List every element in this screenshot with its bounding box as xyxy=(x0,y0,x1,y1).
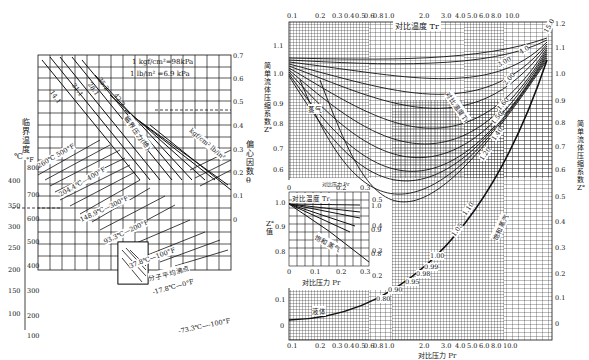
right-tick: 0.3 xyxy=(555,244,565,252)
liquid-label: 液体 xyxy=(312,306,326,316)
inset-left-tick: 1.0 xyxy=(275,199,285,207)
c-tick: 200 xyxy=(8,266,20,274)
celsius-unit: ℃ xyxy=(14,152,23,161)
tr-value: 0.90 xyxy=(388,286,402,294)
f-tick: 400 xyxy=(27,262,39,270)
compressibility-chart xyxy=(260,0,589,359)
top-tick: 0.1 xyxy=(287,12,297,20)
bottom-tick: 0.8 xyxy=(373,342,383,350)
c-tick: 400 xyxy=(8,177,20,185)
left-tick: 0.6 xyxy=(273,166,283,174)
lower-left-tick: 0 xyxy=(280,322,284,330)
left-axis-title: 简单流体压缩系数Z° xyxy=(264,62,273,134)
tr-value: 0.95 xyxy=(405,278,419,286)
lower-left-tick: 0.1 xyxy=(275,296,285,304)
theta-tick: 0.2 xyxy=(233,169,243,177)
inset-bottom-tick: 0.1 xyxy=(310,268,320,276)
inset-x-title: 对比压力 Pr xyxy=(302,277,340,287)
top-tick: 0.8 xyxy=(373,12,383,20)
f-tick: 200 xyxy=(27,312,39,320)
fahrenheit-unit: °F xyxy=(26,156,34,164)
tr-value: 0.98 xyxy=(416,270,430,278)
theta-tick: 0.7 xyxy=(233,52,243,60)
right-tick: 0 xyxy=(555,320,559,328)
left-nomograph xyxy=(0,0,260,359)
c-tick: 300 xyxy=(8,223,20,231)
top-tick: 3.0 xyxy=(441,12,451,20)
bottom-tick: 10.0 xyxy=(503,342,517,350)
theta-tick: 0.4 xyxy=(233,122,243,130)
top-tick: 5.0 xyxy=(467,12,477,20)
f-tick: 100 xyxy=(27,332,39,340)
bottom-tick: 0.4 xyxy=(344,342,354,350)
right-tick: 0.8 xyxy=(555,119,565,127)
theta-tick: 0.6 xyxy=(233,75,243,83)
inset-y-title: Z°值 xyxy=(266,220,274,236)
c-tick: 100 xyxy=(8,310,20,318)
top-tick: 1.0 xyxy=(384,12,394,20)
inset-right-tick: 0.8 xyxy=(371,250,381,258)
top-tick: 0.2 xyxy=(315,12,325,20)
f-tick: 500 xyxy=(27,238,39,246)
right-tick: 0.1 xyxy=(555,294,565,302)
unit-note-2: 1 lb/in² =6.9 kPa xyxy=(130,70,190,78)
theta-tick: 0 xyxy=(233,216,237,224)
vapor-label: 蒸气 xyxy=(308,104,322,114)
bottom-tick: 0.3 xyxy=(332,342,342,350)
f-tick: 600 xyxy=(27,215,39,223)
inset-right-tick: 1.0 xyxy=(371,202,381,210)
inset-left-tick: 0.8 xyxy=(275,248,285,256)
tr-label-top: 对比温度 Tr xyxy=(393,20,441,31)
right-tick: 0.5 xyxy=(555,193,565,201)
top-tick: 2.0 xyxy=(419,12,429,20)
c-tick: 250 xyxy=(8,244,20,252)
tr-value: 1.00 xyxy=(430,252,444,260)
c-tick: 350 xyxy=(8,202,20,210)
theta-tick: 0.5 xyxy=(233,98,243,106)
inset-left-tick: 0.9 xyxy=(275,223,285,231)
top-tick: 10.0 xyxy=(505,12,519,20)
top-tick: 0.3 xyxy=(332,12,342,20)
top-tick: 6.0 xyxy=(479,12,489,20)
inset-top-tick: 0 xyxy=(287,184,291,192)
left-tick: 0.8 xyxy=(273,120,283,128)
crit-temp-axis-title: 临界温度 xyxy=(22,118,32,154)
right-tick: 1.1 xyxy=(555,44,565,52)
bottom-tick: 2.0 xyxy=(419,342,429,350)
left-tick: 1.1 xyxy=(273,42,283,50)
right-tick: 0.6 xyxy=(555,166,565,174)
inset-bottom-tick: 0.3 xyxy=(360,268,370,276)
top-tick: 0.4 xyxy=(344,12,354,20)
f-tick: 300 xyxy=(27,287,39,295)
bottom-tick: 0.2 xyxy=(315,342,325,350)
inset-tr-title: 对比温度 Tr xyxy=(292,193,330,203)
bottom-tick: 3.0 xyxy=(441,342,451,350)
bottom-tick: 6.0 xyxy=(479,342,489,350)
f-tick: 800 xyxy=(27,164,39,172)
c-tick: 150 xyxy=(8,287,20,295)
top-tick: 8.0 xyxy=(491,12,501,20)
acentric-axis-title: 偏心因数 θ xyxy=(246,140,256,185)
left-tick: 1.0 xyxy=(273,70,283,78)
bottom-tick: 1.0 xyxy=(384,342,394,350)
inset-right-tick: 0.9 xyxy=(371,226,381,234)
unit-note-1: 1 kgf/cm²=98kPa xyxy=(132,58,193,66)
bottom-tick: 5.0 xyxy=(467,342,477,350)
inset-top-tick: 0.2 xyxy=(336,184,346,192)
right-axis-title: 简单流体压缩系数Z° xyxy=(577,120,586,192)
bottom-tick: 8.0 xyxy=(491,342,501,350)
f-tick: 700 xyxy=(27,191,39,199)
top-tick: 4.0 xyxy=(455,12,465,20)
inset-bottom-tick: 0.2 xyxy=(336,268,346,276)
lower-left-tick: 0.2 xyxy=(372,272,382,280)
x-axis-title: 对比压力 Pr xyxy=(418,350,456,360)
tr-value: 0.80 xyxy=(376,295,390,303)
inset-bottom-tick: 0 xyxy=(287,268,291,276)
left-tick: 0.7 xyxy=(273,145,283,153)
theta-tick: 0.1 xyxy=(233,192,243,200)
right-tick: 0.2 xyxy=(555,270,565,278)
inset-top-tick: 0.3 xyxy=(360,184,370,192)
right-tick: 0.9 xyxy=(555,97,565,105)
right-tick: 0.7 xyxy=(555,143,565,151)
theta-tick: 0.3 xyxy=(233,146,243,154)
